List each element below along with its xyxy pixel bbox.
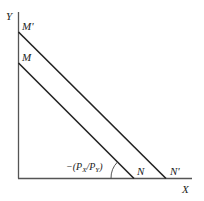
slope-annotation: −(PX/PY)	[66, 161, 103, 174]
budget-line-diagram: Y X M' M N N' −(PX/PY)	[0, 0, 204, 201]
slope-angle-arc	[111, 162, 118, 179]
point-n-prime-label: N'	[169, 165, 180, 177]
y-axis-label: Y	[6, 10, 14, 22]
budget-line-m-prime-n-prime	[19, 32, 167, 179]
point-n-label: N	[136, 165, 145, 177]
point-m-prime-label: M'	[21, 20, 34, 32]
x-axis-label: X	[181, 183, 190, 195]
point-m-label: M	[21, 51, 32, 63]
